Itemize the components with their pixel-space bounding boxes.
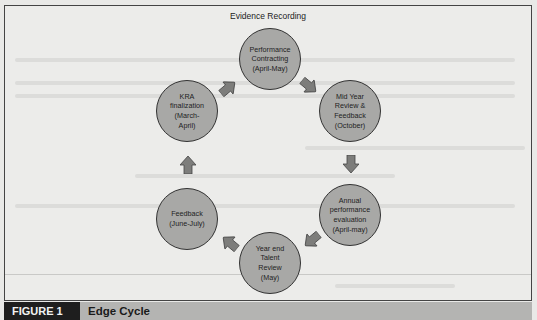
faded-text-line: [15, 94, 515, 98]
node-mid-year-review: Mid YearReview &Feedback(October): [319, 80, 381, 142]
node-feedback: Feedback(June-July): [156, 188, 218, 250]
faded-text-line: [135, 174, 395, 178]
node-performance-contracting: PerformanceContracting(April-May): [239, 28, 301, 90]
node-annual-evaluation: Annualperformanceevaluation(April-may): [319, 184, 381, 246]
arrow-icon: [180, 156, 196, 174]
figure-caption: FIGURE 1 Edge Cycle: [4, 302, 532, 320]
node-kra-finalization: KRAfinalization(March-April): [156, 80, 218, 142]
faded-text-line: [305, 146, 525, 150]
node-year-end-talent-review: Year endTalentReview(May): [239, 232, 301, 294]
figure-label: FIGURE 1: [4, 302, 80, 320]
faded-text-line: [335, 284, 455, 288]
faded-text-line: [15, 204, 515, 208]
arrow-icon: [343, 155, 359, 173]
figure-title: Edge Cycle: [88, 302, 150, 320]
